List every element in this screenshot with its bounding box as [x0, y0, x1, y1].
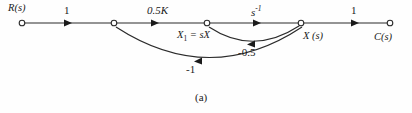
arrowhead-feedback-minus-one — [194, 58, 202, 65]
gain-label-unity-input: 1 — [64, 5, 70, 16]
gain-label-s-inverse: s-1 — [251, 5, 262, 18]
feedback-arc-minus-half — [209, 26, 299, 41]
node-label-x: X (s) — [303, 31, 323, 42]
arrowhead-forward-05k — [151, 20, 159, 27]
node-label-x1-equals: = sX — [187, 29, 210, 40]
node-output-c — [387, 20, 393, 26]
gain-label-feedback-minus-half: -0.5 — [238, 47, 255, 58]
signal-flow-graph-figure: R(s) X1 = sX X (s) C(s) 1 0.5K s-1 1 -0.… — [0, 0, 412, 113]
node-source-r — [19, 20, 25, 26]
gain-label-05k: 0.5K — [147, 5, 168, 16]
gain-label-feedback-minus-one: -1 — [186, 64, 195, 75]
gain-label-unity-output: 1 — [351, 5, 357, 16]
gain-label-s-exponent: -1 — [255, 4, 261, 13]
node-label-source: R(s) — [8, 3, 26, 14]
node-label-output: C(s) — [374, 32, 392, 43]
node-label-x1: X1 = sX — [177, 30, 210, 43]
node-summing-junction — [111, 20, 117, 26]
arrowhead-forward-1 — [64, 20, 72, 27]
node-x — [298, 20, 304, 26]
node-x1 — [204, 20, 210, 26]
arrowhead-forward-sinv — [253, 20, 261, 27]
figure-caption: (a) — [195, 92, 207, 103]
arrowhead-forward-output — [351, 20, 359, 27]
